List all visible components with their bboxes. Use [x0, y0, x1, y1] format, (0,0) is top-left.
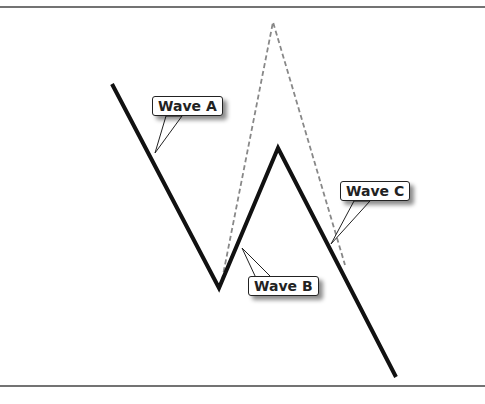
callout-pointers — [155, 116, 370, 278]
wave-b-pointer — [242, 248, 272, 278]
wave-c-pointer — [331, 201, 370, 244]
wave-b-label: Wave B — [248, 276, 319, 296]
wave-c-label: Wave C — [340, 181, 410, 201]
wave-a-label: Wave A — [152, 96, 223, 116]
wave-diagram — [0, 0, 485, 404]
solid-wave-path — [112, 84, 396, 377]
wave-a-pointer — [155, 116, 182, 153]
